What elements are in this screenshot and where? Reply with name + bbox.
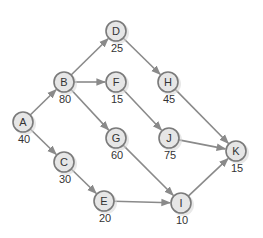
node-label: I bbox=[179, 197, 182, 209]
edge-c-e bbox=[71, 169, 96, 193]
edge-a-b bbox=[30, 90, 56, 115]
edge-j-k bbox=[179, 140, 225, 149]
node-label: F bbox=[113, 76, 120, 88]
node-i: I10 bbox=[171, 193, 194, 226]
node-value: 30 bbox=[59, 173, 71, 185]
node-value: 15 bbox=[231, 162, 243, 174]
node-value: 40 bbox=[18, 133, 30, 145]
node-label: D bbox=[112, 25, 120, 37]
edge-h-k bbox=[175, 89, 228, 143]
edge-b-g bbox=[71, 89, 109, 130]
edge-d-h bbox=[123, 38, 160, 74]
node-a: A40 bbox=[13, 112, 36, 145]
edge-i-k bbox=[188, 159, 228, 197]
node-label: B bbox=[60, 76, 67, 88]
node-value: 10 bbox=[176, 214, 188, 226]
node-j: J75 bbox=[159, 128, 182, 161]
node-c: C30 bbox=[54, 152, 77, 185]
edge-a-c bbox=[30, 129, 56, 154]
node-label: A bbox=[19, 116, 27, 128]
node-k: K15 bbox=[226, 141, 249, 174]
node-f: F15 bbox=[106, 72, 129, 105]
node-value: 20 bbox=[99, 212, 111, 224]
edge-e-i bbox=[114, 201, 170, 202]
node-value: 75 bbox=[164, 149, 176, 161]
node-value: 45 bbox=[163, 93, 175, 105]
node-label: C bbox=[60, 156, 68, 168]
edge-b-d bbox=[71, 39, 108, 75]
nodes-group: A40B80C30D25E20F15G60H45I10J75K15 bbox=[13, 21, 249, 226]
node-h: H45 bbox=[158, 72, 181, 105]
node-label: H bbox=[164, 76, 172, 88]
node-value: 60 bbox=[111, 149, 123, 161]
node-label: K bbox=[232, 145, 240, 157]
node-value: 15 bbox=[111, 93, 123, 105]
node-d: D25 bbox=[106, 21, 129, 54]
node-e: E20 bbox=[94, 191, 117, 224]
node-b: B80 bbox=[54, 72, 77, 105]
node-value: 80 bbox=[59, 93, 71, 105]
node-g: G60 bbox=[106, 128, 129, 161]
node-label: J bbox=[166, 132, 172, 144]
edge-f-j bbox=[123, 89, 161, 130]
node-label: G bbox=[112, 132, 121, 144]
network-diagram: A40B80C30D25E20F15G60H45I10J75K15 bbox=[0, 0, 263, 238]
node-value: 25 bbox=[111, 42, 123, 54]
node-label: E bbox=[100, 195, 107, 207]
